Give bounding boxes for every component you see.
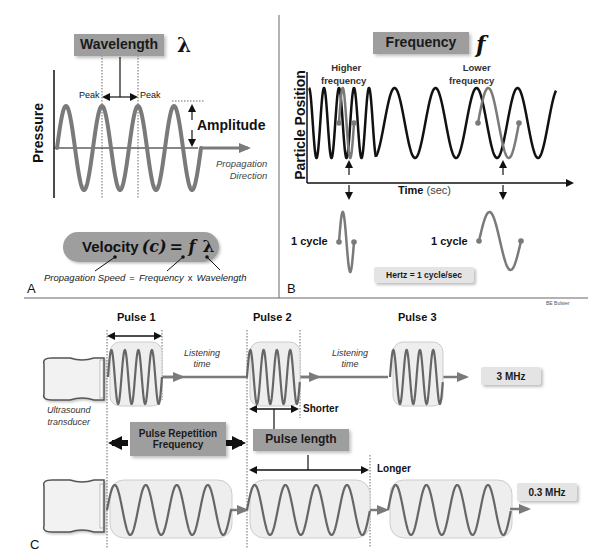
panel-a-letter: A [27, 282, 36, 295]
listening-time-2: Listening time [332, 348, 368, 371]
eq-equals: = [129, 273, 135, 283]
eq-wavelength: Wavelength [197, 273, 247, 283]
hertz-box: Hertz = 1 cycle/sec [374, 267, 474, 283]
pulse-length-box: Pulse length [253, 429, 349, 451]
transducer-line2: transducer [47, 417, 91, 429]
velocity-equation-text: Propagation Speed = Frequency x Waveleng… [44, 273, 247, 283]
propagation-label: Propagation Direction [216, 158, 267, 183]
lambda-symbol: λ [177, 35, 191, 55]
peak-right-label: Peak [140, 91, 161, 100]
time-unit: (sec) [427, 184, 451, 196]
higher-line2: frequency [321, 75, 366, 88]
shorter-label: Shorter [303, 404, 339, 414]
eq-speed: Propagation Speed [44, 273, 125, 283]
velocity-formula: Velocity (c) = f λ [82, 238, 214, 255]
peak-left-label: Peak [79, 91, 100, 100]
listening2-line1: Listening [332, 348, 368, 359]
propagation-line1: Propagation [216, 158, 267, 170]
particle-position-axis-label: Particle Position [293, 70, 307, 180]
pressure-axis-label: Pressure [31, 103, 45, 163]
lower-line2: frequency [449, 75, 494, 88]
longer-label: Longer [377, 464, 411, 474]
eq-frequency: Frequency [139, 273, 184, 283]
time-word: Time [398, 184, 423, 196]
pulse1-label: Pulse 1 [117, 312, 156, 323]
listening2-line2: time [332, 359, 368, 370]
lower-line1: Lower [459, 62, 494, 75]
velocity-lambda: λ [202, 238, 214, 255]
freq-3mhz-box: 3 MHz [481, 367, 541, 385]
lower-frequency-label: Lower frequency [459, 62, 494, 88]
f-symbol: f [476, 33, 485, 55]
time-axis-label: Time (sec) [398, 185, 451, 196]
prf-line2: Frequency [153, 439, 204, 450]
credit-label: BE Bulwer [546, 301, 569, 306]
higher-frequency-label: Higher frequency [326, 62, 366, 88]
pulse2-label: Pulse 2 [253, 312, 292, 323]
eq-times: x [188, 273, 193, 283]
prf-box: Pulse Repetition Frequency [130, 422, 226, 456]
velocity-eq: = f [170, 239, 196, 255]
wavelength-label: Wavelength [74, 34, 164, 56]
listening-time-1: Listening time [184, 348, 220, 371]
panel-c-letter: C [30, 538, 39, 551]
transducer-line1: Ultrasound [47, 405, 91, 417]
freq-03mhz-box: 0.3 MHz [517, 483, 577, 501]
frequency-label: Frequency [373, 32, 469, 54]
cycle-left-label: 1 cycle [291, 236, 328, 247]
amplitude-label: Amplitude [197, 118, 265, 132]
panel-b-letter: B [287, 282, 296, 295]
cycle-right-label: 1 cycle [431, 236, 468, 247]
velocity-word: Velocity [82, 239, 139, 254]
propagation-line2: Direction [216, 170, 267, 182]
listening1-line2: time [184, 359, 220, 370]
transducer-label: Ultrasound transducer [47, 405, 91, 428]
listening1-line1: Listening [184, 348, 220, 359]
pulse3-label: Pulse 3 [398, 312, 437, 323]
velocity-c: (c) [142, 239, 167, 255]
higher-line1: Higher [326, 62, 366, 75]
prf-line1: Pulse Repetition [139, 428, 217, 439]
